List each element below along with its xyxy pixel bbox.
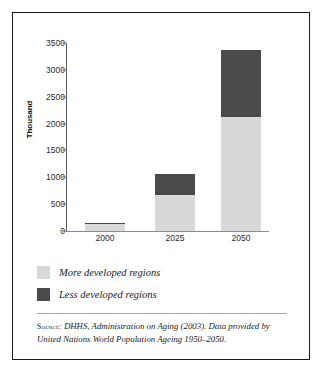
bar-segment-more-developed bbox=[155, 195, 195, 231]
y-axis-line bbox=[66, 43, 67, 231]
x-tick-label-2000: 2000 bbox=[75, 233, 135, 243]
chart-legend: More developed regions Less developed re… bbox=[37, 266, 287, 310]
chart-plot-area: Thousand 3500 3000 2500 2000 1500 1000 5… bbox=[13, 13, 311, 245]
figure-panel: Thousand 3500 3000 2500 2000 1500 1000 5… bbox=[12, 12, 310, 360]
y-tick-label: 3000 bbox=[31, 65, 65, 75]
bar-segment-more-developed bbox=[85, 224, 125, 230]
legend-label: Less developed regions bbox=[59, 289, 157, 300]
y-axis-tick-labels: 3500 3000 2500 2000 1500 1000 500 0 bbox=[27, 13, 65, 245]
source-divider bbox=[37, 313, 287, 314]
bar-segment-less-developed bbox=[155, 174, 195, 194]
y-tick-label: 0 bbox=[31, 226, 65, 236]
y-tick-label: 2500 bbox=[31, 92, 65, 102]
y-tick-label: 1000 bbox=[31, 172, 65, 182]
bar-2000[interactable] bbox=[85, 223, 125, 231]
legend-swatch-icon bbox=[37, 288, 50, 301]
bar-2025[interactable] bbox=[155, 174, 195, 230]
y-tick-label: 500 bbox=[31, 199, 65, 209]
legend-item-more-developed: More developed regions bbox=[37, 266, 287, 279]
legend-swatch-icon bbox=[37, 266, 50, 279]
y-tick-label: 3500 bbox=[31, 38, 65, 48]
x-tick-label-2025: 2025 bbox=[145, 233, 205, 243]
legend-label: More developed regions bbox=[59, 267, 160, 278]
source-label: Source: bbox=[37, 322, 62, 331]
y-tick-label: 1500 bbox=[31, 145, 65, 155]
x-axis-line bbox=[66, 231, 269, 232]
source-text: DHHS, Administration on Aging (2003). Da… bbox=[37, 321, 270, 344]
x-tick-label-2050: 2050 bbox=[211, 233, 271, 243]
bar-2050[interactable] bbox=[221, 50, 261, 231]
bar-segment-more-developed bbox=[221, 117, 261, 230]
bar-segment-less-developed bbox=[221, 50, 261, 118]
source-note: Source: DHHS, Administration on Aging (2… bbox=[37, 320, 292, 346]
y-tick-label: 2000 bbox=[31, 119, 65, 129]
legend-item-less-developed: Less developed regions bbox=[37, 288, 287, 301]
